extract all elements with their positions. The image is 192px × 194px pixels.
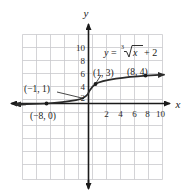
equation-radicand: x <box>132 47 138 58</box>
equation-root-index: 3 <box>121 44 124 50</box>
point-marker <box>45 102 49 106</box>
equation-equals: = <box>111 47 117 58</box>
equation-constant: + 2 <box>144 47 157 58</box>
point-label-neg8-0: (−8, 0) <box>30 111 56 122</box>
x-tick-label: 6 <box>132 109 137 119</box>
y-tick-label: 10 <box>76 43 86 53</box>
cube-root-function-graph: y x 10 8 6 4 2 2 4 6 8 10 <box>0 0 192 194</box>
y-tick-label: 4 <box>81 82 86 92</box>
graph-figure: y x 10 8 6 4 2 2 4 6 8 10 <box>0 0 192 194</box>
point-label-1-3: (1, 3) <box>93 68 114 79</box>
x-tick-label: 2 <box>104 109 109 119</box>
x-axis-label: x <box>175 98 181 110</box>
point-label-neg1-1: (−1, 1) <box>24 84 50 95</box>
y-tick-label: 8 <box>81 56 86 66</box>
x-tick-label: 8 <box>145 109 150 119</box>
x-tick-label: 10 <box>156 109 166 119</box>
point-marker <box>94 82 98 86</box>
y-axis-label: y <box>83 7 89 19</box>
equation-lhs: y <box>103 47 109 58</box>
point-label-8-4: (8, 4) <box>127 67 148 78</box>
y-tick-label: 6 <box>81 69 86 79</box>
x-tick-label: 4 <box>118 109 123 119</box>
